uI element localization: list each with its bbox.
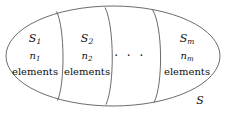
divider-curve-3 — [153, 10, 161, 103]
divider-curve-2 — [105, 8, 112, 105]
set-partition-diagram: S1 n1 elements S2 n2 elements · · · Sm n… — [0, 0, 226, 119]
partition-outline-graphic — [0, 0, 226, 119]
divider-curve-1 — [57, 12, 64, 101]
outer-set-ellipse — [6, 6, 220, 106]
